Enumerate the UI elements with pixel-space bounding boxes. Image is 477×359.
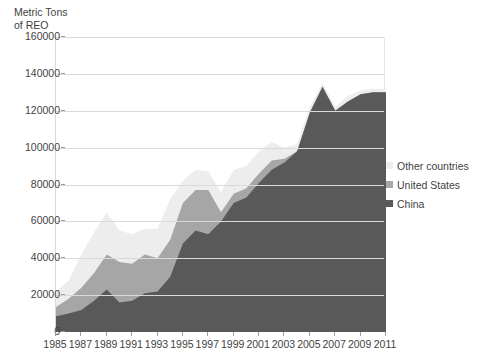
- gridline: [56, 111, 384, 112]
- gridline: [56, 148, 384, 149]
- y-tick-mark: [61, 73, 65, 74]
- y-tick-label: 0: [10, 325, 60, 337]
- x-tick-mark: [385, 332, 386, 336]
- legend-item-china[interactable]: China: [386, 194, 476, 213]
- x-tick-mark: [334, 332, 335, 336]
- y-tick-label: 160000: [10, 30, 60, 42]
- y-tick-label: 60000: [10, 214, 60, 226]
- legend-swatch-icon: [386, 181, 393, 188]
- x-tick-label: 2011: [370, 338, 400, 350]
- gridline: [56, 74, 384, 75]
- y-tick-mark: [61, 331, 65, 332]
- y-tick-mark: [61, 110, 65, 111]
- legend-swatch-icon: [386, 162, 393, 169]
- x-tick-mark: [360, 332, 361, 336]
- x-tick-mark: [157, 332, 158, 336]
- y-tick-label: 20000: [10, 288, 60, 300]
- x-tick-mark: [55, 332, 56, 336]
- x-tick-mark: [207, 332, 208, 336]
- y-tick-label: 80000: [10, 178, 60, 190]
- y-tick-mark: [61, 220, 65, 221]
- y-tick-mark: [61, 257, 65, 258]
- x-tick-mark: [309, 332, 310, 336]
- x-tick-mark: [283, 332, 284, 336]
- legend-label: United States: [397, 179, 460, 191]
- chart-root: Metric Tons of REO 020000400006000080000…: [0, 0, 477, 359]
- y-tick-label: 40000: [10, 251, 60, 263]
- x-tick-mark: [233, 332, 234, 336]
- gridline: [56, 258, 384, 259]
- x-tick-mark: [258, 332, 259, 336]
- legend-item-united-states[interactable]: United States: [386, 175, 476, 194]
- x-tick-mark: [106, 332, 107, 336]
- legend-label: Other countries: [397, 160, 469, 172]
- y-tick-label: 120000: [10, 104, 60, 116]
- gridline: [56, 37, 384, 38]
- chart-legend: Other countriesUnited StatesChina: [386, 156, 476, 213]
- legend-label: China: [397, 198, 424, 210]
- gridline: [56, 221, 384, 222]
- y-tick-label: 100000: [10, 141, 60, 153]
- y-tick-mark: [61, 184, 65, 185]
- x-tick-mark: [182, 332, 183, 336]
- x-tick-mark: [80, 332, 81, 336]
- y-tick-mark: [61, 294, 65, 295]
- gridline: [56, 295, 384, 296]
- legend-swatch-icon: [386, 200, 393, 207]
- y-tick-mark: [61, 147, 65, 148]
- y-tick-mark: [61, 36, 65, 37]
- y-tick-label: 140000: [10, 67, 60, 79]
- gridline: [56, 185, 384, 186]
- plot-area: [55, 37, 385, 332]
- x-tick-mark: [131, 332, 132, 336]
- y-axis-title: Metric Tons of REO: [14, 6, 68, 31]
- legend-item-other-countries[interactable]: Other countries: [386, 156, 476, 175]
